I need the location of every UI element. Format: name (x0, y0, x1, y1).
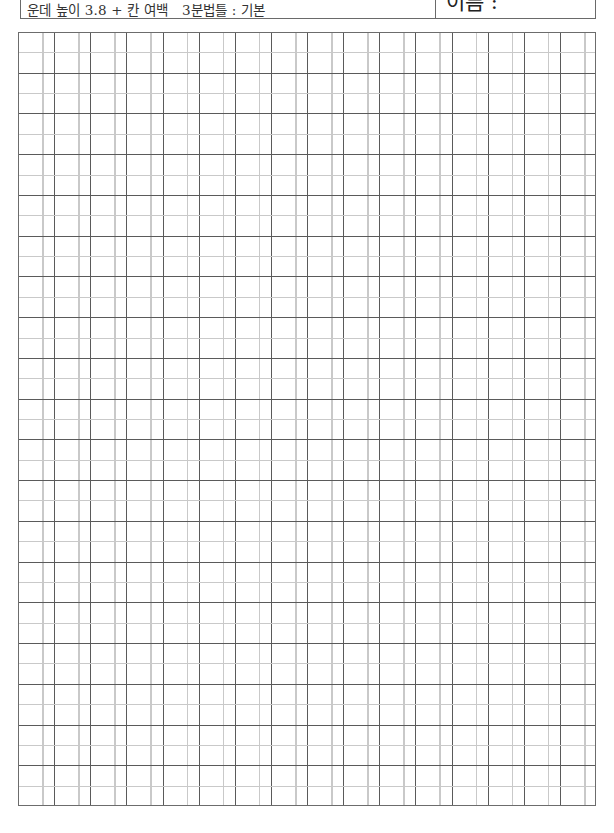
row-line (19, 154, 595, 155)
row-guide-line (19, 786, 595, 787)
row-line (19, 684, 595, 685)
row-guide-line (19, 52, 595, 53)
row-guide-line (19, 460, 595, 461)
row-guide-line (19, 704, 595, 705)
row-line (19, 765, 595, 766)
row-line (19, 113, 595, 114)
row-guide-line (19, 745, 595, 746)
row-line (19, 562, 595, 563)
row-guide-line (19, 256, 595, 257)
row-guide-line (19, 93, 595, 94)
row-guide-line (19, 338, 595, 339)
row-guide-line (19, 582, 595, 583)
row-guide-line (19, 419, 595, 420)
row-line (19, 521, 595, 522)
row-guide-line (19, 541, 595, 542)
header-box: 운데 높이 3.8 + 칸 여백 3분법틀 : 기본 이름 : (20, 0, 596, 19)
header-title-cell: 운데 높이 3.8 + 칸 여백 3분법틀 : 기본 (21, 0, 436, 18)
row-line (19, 480, 595, 481)
row-line (19, 399, 595, 400)
row-line (19, 276, 595, 277)
writing-grid (18, 32, 596, 806)
row-guide-line (19, 175, 595, 176)
row-line (19, 358, 595, 359)
row-line (19, 439, 595, 440)
row-line (19, 602, 595, 603)
row-line (19, 73, 595, 74)
row-line (19, 317, 595, 318)
row-guide-line (19, 623, 595, 624)
name-cell[interactable]: 이름 : (436, 0, 595, 18)
row-guide-line (19, 134, 595, 135)
row-guide-line (19, 378, 595, 379)
row-guide-line (19, 663, 595, 664)
row-line (19, 643, 595, 644)
name-label: 이름 : (446, 0, 498, 14)
row-guide-line (19, 215, 595, 216)
worksheet-title: 운데 높이 3.8 + 칸 여백 3분법틀 : 기본 (27, 2, 265, 18)
row-guide-line (19, 297, 595, 298)
row-line (19, 725, 595, 726)
row-line (19, 195, 595, 196)
row-guide-line (19, 500, 595, 501)
row-line (19, 236, 595, 237)
